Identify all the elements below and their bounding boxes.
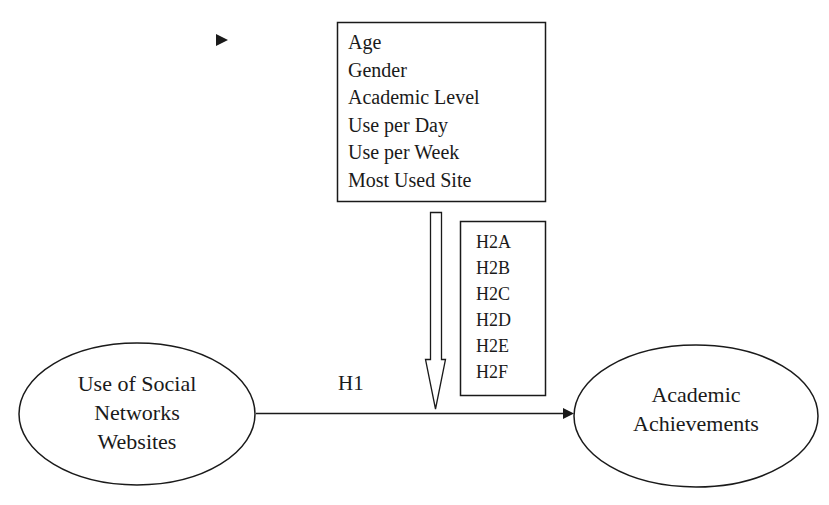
hypothesis-item: H2B: [476, 255, 511, 281]
moderation-arrow-icon: [426, 213, 446, 410]
hypothesis-item: H2D: [476, 307, 511, 333]
label-line: Networks: [37, 398, 237, 427]
hypotheses-list: H2A H2B H2C H2D H2E H2F: [476, 229, 511, 385]
moderator-item: Most Used Site: [348, 167, 480, 195]
moderator-item: Age: [348, 29, 480, 57]
label-line: Achievements: [595, 409, 797, 438]
h1-label: H1: [338, 371, 364, 396]
hypothesis-item: H2C: [476, 281, 511, 307]
moderators-list: Age Gender Academic Level Use per Day Us…: [348, 29, 480, 194]
hypothesis-item: H2A: [476, 229, 511, 255]
independent-variable-label: Use of Social Networks Websites: [37, 369, 237, 456]
moderator-item: Use per Week: [348, 139, 480, 167]
label-line: Websites: [37, 427, 237, 456]
moderator-item: Gender: [348, 57, 480, 85]
hypothesis-item: H2F: [476, 359, 511, 385]
moderator-item: Academic Level: [348, 84, 480, 112]
h1-arrowhead-icon: [563, 408, 574, 419]
label-line: Academic: [595, 380, 797, 409]
stray-arrowhead-icon: [216, 34, 228, 46]
hypothesis-item: H2E: [476, 333, 511, 359]
label-line: Use of Social: [37, 369, 237, 398]
moderator-item: Use per Day: [348, 112, 480, 140]
dependent-variable-label: Academic Achievements: [595, 380, 797, 438]
